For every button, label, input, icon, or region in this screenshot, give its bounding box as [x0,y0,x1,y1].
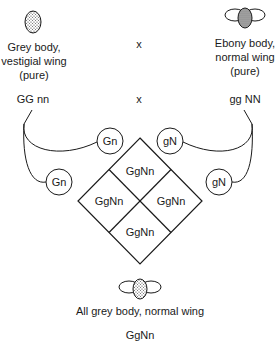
right-gamete-2: gN [206,169,232,195]
left-parent-phenotype-line3: (pure) [19,69,48,81]
svg-text:Gn: Gn [103,135,118,147]
offspring-genotype: GgNn [126,329,155,341]
ebony-fly-normal-wing-icon [225,8,265,28]
punnett-cell-top: GgNn [126,165,155,177]
left-gamete-1: Gn [97,128,123,154]
svg-text:gN: gN [163,135,177,147]
svg-text:gN: gN [212,176,226,188]
offspring-phenotype: All grey body, normal wing [76,305,204,317]
right-parent-phenotype-line1: Ebony body, [215,37,275,49]
left-parent-phenotype-line1: Grey body, [8,41,61,53]
punnett-cell-right: GgNn [157,195,186,207]
cross-symbol-genotype: x [136,93,142,105]
cross-symbol-phenotype: x [136,38,142,50]
left-parent-phenotype-line2: vestigial wing [1,55,66,67]
genetics-cross-diagram: Grey body, vestigial wing (pure) GG nn x… [0,0,278,348]
svg-text:Gn: Gn [52,176,67,188]
right-gamete-1: gN [157,128,183,154]
punnett-cell-left: GgNn [95,195,124,207]
right-parent-genotype: gg NN [229,93,260,105]
right-parent-phenotype-line2: normal wing [215,51,274,63]
left-gamete-2: Gn [46,169,72,195]
grey-fly-normal-wing-icon [119,279,161,299]
left-parent-genotype: GG nn [17,93,49,105]
grey-fly-vestigial-wing-icon [25,11,41,33]
punnett-cell-bottom: GgNn [126,226,155,238]
right-parent-phenotype-line3: (pure) [230,65,259,77]
